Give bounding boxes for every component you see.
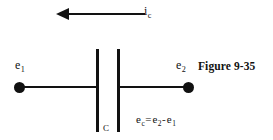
wire-right (118, 86, 188, 88)
equation-lhs-subscript: c (141, 119, 144, 128)
equation-rhs-first-subscript: 2 (158, 119, 162, 128)
terminal-dot-right (183, 82, 194, 93)
current-label-base: i (144, 4, 147, 18)
voltage-equation: ec=e2-e1 (136, 114, 175, 125)
equation-rhs-first-base: e (152, 113, 157, 125)
capacitor-plate-right (117, 49, 120, 132)
current-label: ic (144, 5, 151, 17)
terminal-label-left: e1 (15, 59, 24, 71)
equation-rhs-second-subscript: 1 (172, 119, 176, 128)
terminal-label-right-base: e (176, 58, 181, 72)
capacitor-plate-left (96, 49, 99, 132)
wire-left (19, 86, 98, 88)
figure-capacitor-diagram: ic e1 C e2 ec=e2-e1 Figure 9-35 (0, 0, 273, 140)
terminal-label-left-base: e (15, 58, 20, 72)
current-label-subscript: c (148, 11, 152, 20)
terminal-label-right: e2 (176, 59, 185, 71)
current-arrow-shaft (62, 13, 145, 15)
capacitor-label: C (103, 124, 109, 133)
terminal-label-left-subscript: 1 (21, 65, 25, 74)
equation-rhs-second-base: e (167, 113, 172, 125)
terminal-label-right-subscript: 2 (182, 65, 186, 74)
figure-caption: Figure 9-35 (198, 60, 255, 72)
